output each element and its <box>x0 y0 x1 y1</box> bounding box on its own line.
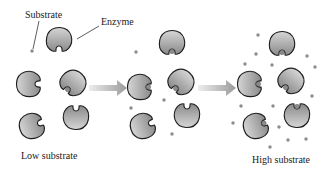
enzyme-bound <box>274 63 309 97</box>
substrate-pointer <box>33 21 39 49</box>
substrate-molecule <box>129 106 132 109</box>
substrate-label: Substrate <box>25 9 63 20</box>
panel-high-substrate <box>231 31 316 148</box>
enzyme <box>16 71 40 96</box>
substrate-molecule <box>256 33 259 36</box>
substrate-molecule <box>254 52 257 55</box>
substrate-molecule <box>277 125 280 128</box>
panel-medium-substrate <box>127 30 200 142</box>
enzyme-label: Enzyme <box>101 16 134 27</box>
substrate-molecule <box>310 94 313 97</box>
substrate-molecule <box>270 63 273 66</box>
enzyme <box>63 106 88 130</box>
enzyme-bound <box>164 64 199 98</box>
high-substrate-label: High substrate <box>252 154 311 165</box>
substrate-molecule <box>313 65 316 68</box>
low-substrate-label: Low substrate <box>21 150 78 161</box>
panel-low-substrate <box>16 27 91 142</box>
substrate-molecule <box>268 145 271 148</box>
enzyme-bound <box>127 74 151 99</box>
arrow-right-icon <box>89 80 127 96</box>
enzyme-pointer <box>77 26 99 39</box>
enzyme-bound <box>56 65 91 99</box>
enzyme <box>127 110 158 142</box>
substrate-molecule <box>231 121 234 124</box>
substrate-molecule <box>305 54 308 57</box>
substrate-molecule <box>239 104 242 107</box>
enzyme-substrate-diagram: Substrate Enzyme Low substrate High subs… <box>0 0 331 175</box>
arrow-right-icon <box>198 80 236 96</box>
enzyme-bound <box>159 30 184 54</box>
enzyme-bound <box>269 31 294 55</box>
enzyme-bound <box>240 110 271 142</box>
substrate-molecule <box>162 98 165 101</box>
substrate-molecule <box>271 104 274 107</box>
substrate-molecule <box>304 137 307 140</box>
substrate-molecule <box>30 49 33 52</box>
substrate-molecule <box>134 50 137 53</box>
enzyme-bound <box>237 71 261 96</box>
substrate-molecule <box>243 62 246 65</box>
substrate-molecule <box>286 138 289 141</box>
enzyme-bound <box>284 104 309 128</box>
enzyme <box>46 27 71 51</box>
enzyme <box>174 104 199 128</box>
enzyme <box>16 110 47 142</box>
substrate-molecule <box>170 132 173 135</box>
